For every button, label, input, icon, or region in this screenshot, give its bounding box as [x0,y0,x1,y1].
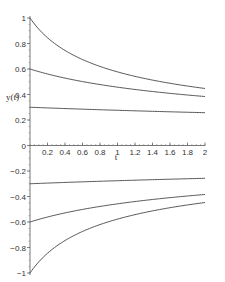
x-tick-label: 2 [203,148,208,157]
x-tick-label: 0.8 [94,148,106,157]
y-tick-label: −1 [17,269,27,278]
y-tick-label: 0.8 [15,40,27,49]
curve-y0-0-6 [30,194,205,222]
y-tick-label: 0.2 [15,116,27,125]
y-tick-label: 0.6 [15,65,27,74]
y-tick-label: −0.2 [10,167,26,176]
curve-y0-1 [30,18,205,88]
axes: 10.80.60.40.20−0.2−0.4−0.6−0.8−10.20.40.… [10,14,208,278]
line-chart: 10.80.60.40.20−0.2−0.4−0.6−0.8−10.20.40.… [0,0,225,282]
y-tick-label: −0.8 [10,244,26,253]
y-axis-label: y(t) [6,92,19,102]
curve-y0-1 [30,203,205,273]
x-tick-label: 1.6 [164,148,176,157]
y-tick-label: 0 [22,142,27,151]
y-tick-label: −0.4 [10,193,26,202]
x-tick-label: 1.4 [147,148,159,157]
x-tick-label: 0.2 [42,148,54,157]
y-tick-label: −0.6 [10,218,26,227]
x-tick-label: 0.6 [77,148,89,157]
curve-y0-0-6 [30,69,205,97]
y-tick-label: 1 [22,14,27,23]
curve-y0-0-3 [30,107,205,112]
x-tick-label: 0.4 [59,148,71,157]
curve-y0-0-3 [30,178,205,183]
x-tick-label: 1.2 [129,148,141,157]
x-tick-label: 1.8 [182,148,194,157]
